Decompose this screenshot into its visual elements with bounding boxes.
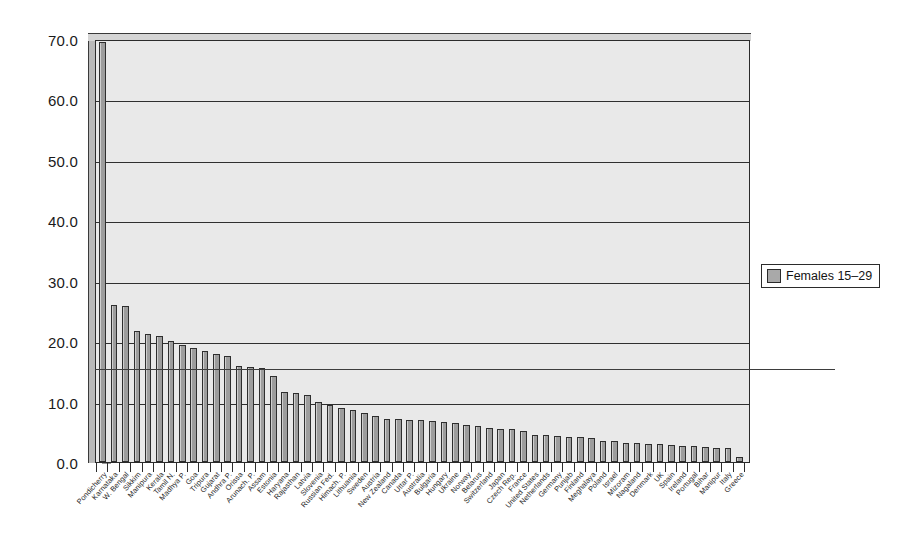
legend-label: Females 15–29 (786, 269, 872, 283)
legend-swatch-icon (767, 269, 781, 283)
bar-chart-figure: 0.010.020.030.040.050.060.070.0 Pondiche… (0, 0, 919, 556)
chart-legend[interactable]: Females 15–29 (761, 264, 880, 288)
